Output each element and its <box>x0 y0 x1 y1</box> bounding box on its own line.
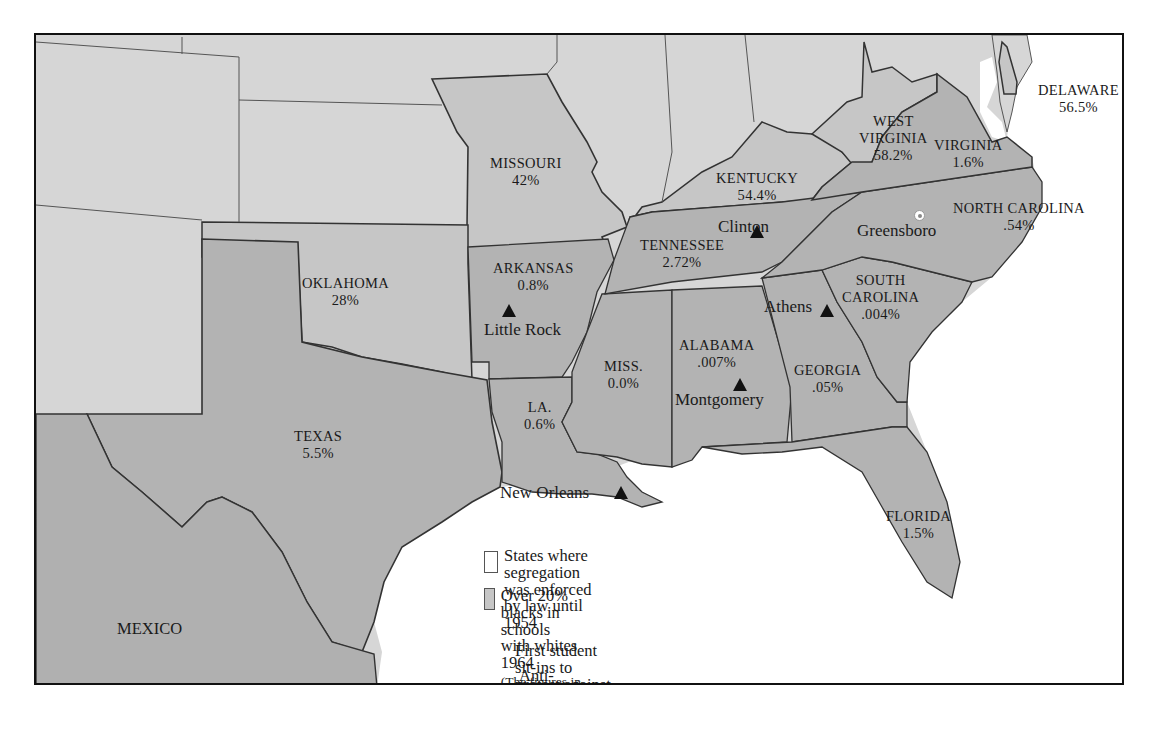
legend-item-violence: Anti-integration violence, 1955-1960 <box>489 668 590 685</box>
label-arkansas: ARKANSAS0.8% <box>493 260 574 294</box>
map-frame: DELAWARE56.5% WESTVIRGINIA58.2% VIRGINIA… <box>34 33 1124 685</box>
violence-marker-icon <box>820 304 834 317</box>
label-georgia: GEORGIA.05% <box>794 362 861 396</box>
label-oklahoma: OKLAHOMA28% <box>302 275 389 309</box>
label-alabama: ALABAMA.007% <box>679 337 754 371</box>
label-delaware: DELAWARE56.5% <box>1038 82 1119 116</box>
city-little-rock: Little Rock <box>484 320 561 340</box>
label-missouri: MISSOURI42% <box>490 155 562 189</box>
label-tennessee: TENNESSEE2.72% <box>640 237 724 271</box>
label-louisiana: LA.0.6% <box>524 399 555 433</box>
label-kentucky: KENTUCKY54.4% <box>716 170 798 204</box>
city-athens: Athens <box>764 297 812 317</box>
label-north-carolina: NORTH CAROLINA.54% <box>953 200 1085 234</box>
gray-swatch-icon <box>484 588 495 610</box>
label-mississippi: MISS.0.0% <box>604 358 643 392</box>
violence-marker-icon <box>750 225 764 238</box>
city-montgomery: Montgomery <box>675 390 764 410</box>
violence-marker-icon <box>614 486 628 499</box>
label-mexico: MEXICO <box>117 619 182 638</box>
label-south-carolina: SOUTHCAROLINA.004% <box>842 272 919 323</box>
violence-marker-icon <box>502 304 516 317</box>
city-new-orleans: New Orleans <box>500 483 589 503</box>
label-west-virginia: WESTVIRGINIA58.2% <box>859 113 927 164</box>
city-greensboro: Greensboro <box>857 221 936 241</box>
sit-in-marker-icon <box>914 210 925 221</box>
label-virginia: VIRGINIA1.6% <box>934 137 1002 171</box>
label-texas: TEXAS5.5% <box>294 428 342 462</box>
white-swatch-icon <box>484 551 498 573</box>
label-florida: FLORIDA1.5% <box>886 508 951 542</box>
